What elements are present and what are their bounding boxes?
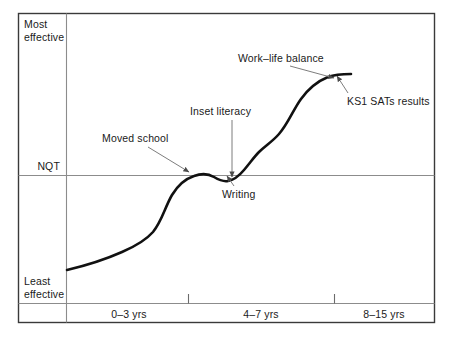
y-axis-label-most-effective: Most effective <box>24 18 64 43</box>
y-axis-label-least-effective: Least effective <box>24 275 64 300</box>
chart-figure: Most effective NQT Least effective 0–3 y… <box>0 0 458 339</box>
y-axis-label-nqt: NQT <box>14 160 60 173</box>
x-axis-tick-label-4-7-yrs: 4–7 yrs <box>188 308 334 320</box>
chart-outer-frame <box>19 14 435 323</box>
y-axis-label-least-effective-line2: effective <box>24 288 64 300</box>
annotation-label-ks1-sats-results: KS1 SATs results <box>347 95 430 108</box>
y-axis-label-least-effective-line1: Least <box>24 275 50 287</box>
y-axis-label-most-effective-line2: effective <box>24 31 64 43</box>
annotation-label-inset-literacy: Inset literacy <box>190 105 251 118</box>
annotation-label-writing: Writing <box>222 188 256 201</box>
x-axis-tick-label-0-3-yrs: 0–3 yrs <box>70 308 188 320</box>
y-axis-label-most-effective-line1: Most <box>24 18 47 30</box>
annotation-label-work-life-balance: Work–life balance <box>238 52 324 65</box>
chart-canvas <box>0 0 458 339</box>
annotation-label-moved-school: Moved school <box>102 132 169 145</box>
x-axis-tick-label-8-15-yrs: 8–15 yrs <box>334 308 434 320</box>
